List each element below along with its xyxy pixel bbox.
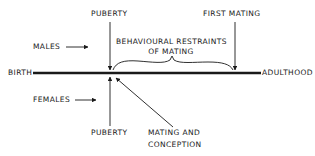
first-mating-label: FIRST MATING [203,9,261,19]
restraint-brace [113,56,233,70]
birth-label: BIRTH [8,68,32,78]
adulthood-label: ADULTHOOD [262,68,313,78]
mating-conception-label-line2: CONCEPTION [148,140,202,150]
males-label: MALES [33,42,60,52]
males-puberty-label: PUBERTY [91,9,128,19]
restraints-label-line1: BEHAVIOURAL RESTRAINTS [116,37,226,47]
females-puberty-label: PUBERTY [91,128,128,138]
diagram-canvas: BIRTH ADULTHOOD MALES PUBERTY FIRST MATI… [0,0,315,156]
restraints-label-line2: OF MATING [116,47,226,57]
mating-conception-label-line1: MATING AND [148,128,200,138]
mating-conception-arrow [116,78,173,127]
females-label: FEMALES [33,95,70,105]
